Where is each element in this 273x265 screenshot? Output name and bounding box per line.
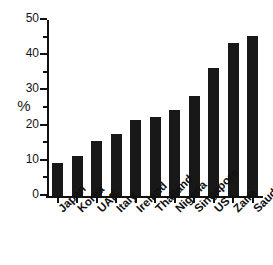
bar [247,36,258,196]
bar-chart-figure: % 01020304050 JapanKoreaUAEItalyIrelandT… [0,0,273,265]
y-tick-label: 20 [26,118,39,130]
chart-screenshot: % 01020304050 JapanKoreaUAEItalyIrelandT… [0,0,273,265]
y-tick-label: 40 [26,47,39,59]
y-tick-label: 0 [32,188,39,200]
y-tick-minor [43,71,47,73]
y-tick-label: 30 [26,82,39,94]
y-axis-spine [47,20,49,197]
y-tick-major [40,124,47,126]
y-tick-major [40,159,47,161]
y-tick-minor [43,176,47,178]
y-tick-minor [43,106,47,108]
x-axis-category-labels: JapanKoreaUAEItalyIrelandThailandNigeria… [47,204,273,265]
bar [208,68,219,196]
y-tick-minor [43,36,47,38]
y-tick-label: 50 [26,12,39,24]
bar [52,163,63,196]
bar [130,120,141,196]
y-tick-major [40,18,47,20]
y-tick-minor [43,141,47,143]
y-tick-major [40,194,47,196]
y-tick-major [40,53,47,55]
y-tick-label: 10 [26,153,39,165]
y-tick-major [40,88,47,90]
bar [111,134,122,196]
y-axis-label: % [8,98,30,113]
